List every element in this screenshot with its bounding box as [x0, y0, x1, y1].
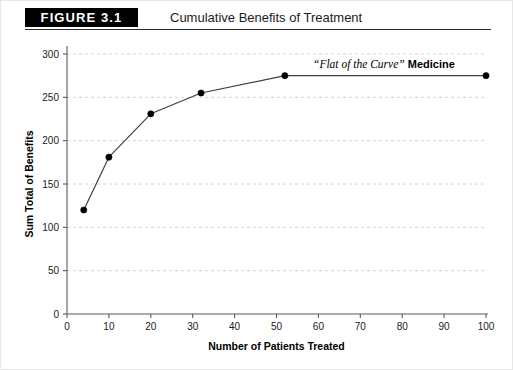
y-tick-label: 0: [53, 309, 59, 320]
header-divider: [25, 29, 491, 30]
figure-header: FIGURE 3.1 Cumulative Benefits of Treatm…: [1, 1, 513, 35]
line-chart-svg: 0501001502002503000102030405060708090100…: [1, 35, 513, 370]
x-tick-label: 50: [271, 321, 283, 332]
y-tick-label: 100: [42, 222, 59, 233]
figure-container: FIGURE 3.1 Cumulative Benefits of Treatm…: [0, 0, 513, 370]
x-tick-label: 20: [145, 321, 157, 332]
y-tick-label: 300: [42, 49, 59, 60]
y-axis-title: Sum Total of Benefits: [23, 130, 35, 237]
x-tick-label: 30: [187, 321, 199, 332]
annotation-quote-text: “Flat of the Curve”: [313, 58, 405, 70]
data-point-marker: [198, 90, 204, 96]
data-point-marker: [81, 207, 87, 213]
x-tick-label: 60: [313, 321, 325, 332]
x-tick-label: 10: [103, 321, 115, 332]
y-tick-label: 50: [48, 265, 60, 276]
flat-of-curve-annotation: “Flat of the Curve” Medicine: [313, 57, 455, 71]
x-tick-label: 40: [229, 321, 241, 332]
y-tick-label: 150: [42, 179, 59, 190]
data-point-marker: [483, 73, 489, 79]
data-point-marker: [106, 154, 112, 160]
data-series-line: [84, 76, 486, 210]
annotation-emphasis-text: Medicine: [408, 58, 455, 70]
x-tick-label: 100: [478, 321, 495, 332]
figure-title: Cumulative Benefits of Treatment: [170, 9, 362, 26]
x-tick-label: 90: [439, 321, 451, 332]
y-tick-label: 200: [42, 135, 59, 146]
y-tick-label: 250: [42, 92, 59, 103]
x-tick-label: 70: [355, 321, 367, 332]
data-point-marker: [282, 73, 288, 79]
x-tick-label: 80: [397, 321, 409, 332]
figure-number-badge: FIGURE 3.1: [25, 8, 138, 27]
x-tick-label: 0: [64, 321, 70, 332]
data-point-marker: [148, 111, 154, 117]
chart-plot-area: 0501001502002503000102030405060708090100…: [1, 35, 513, 370]
x-axis-title: Number of Patients Treated: [208, 340, 345, 352]
